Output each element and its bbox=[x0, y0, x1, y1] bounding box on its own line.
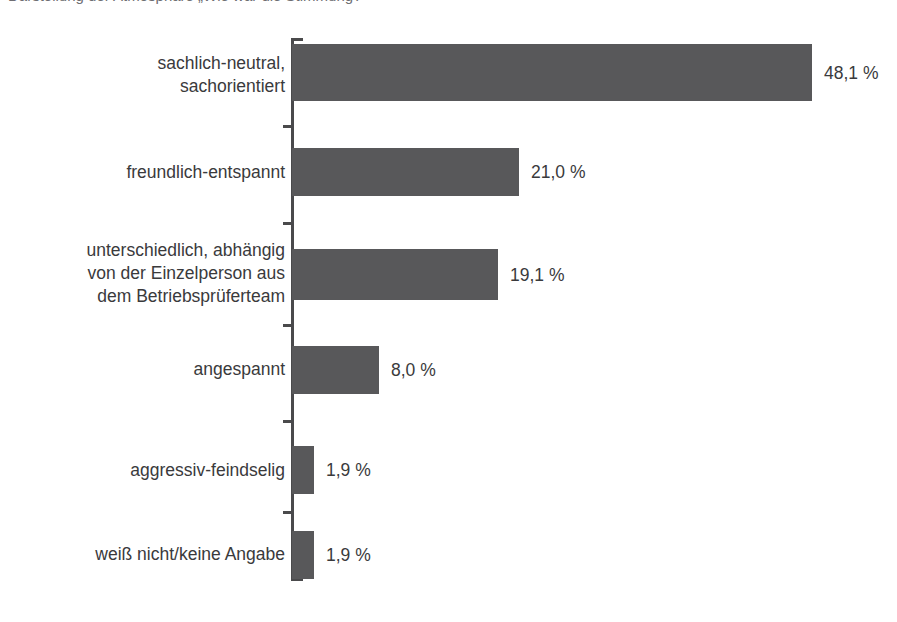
bar-value-label: 1,9 % bbox=[326, 545, 371, 565]
axis-tick bbox=[283, 511, 292, 514]
axis-tick bbox=[283, 324, 292, 327]
bar-value-label: 1,9 % bbox=[326, 460, 371, 480]
category-label: freundlich-entspannt bbox=[0, 161, 285, 184]
bar bbox=[292, 346, 379, 394]
category-label: sachlich-neutral, sachorientiert bbox=[0, 52, 285, 98]
bar bbox=[292, 249, 498, 300]
bar bbox=[292, 531, 314, 579]
category-label: unterschiedlich, abhängig von der Einzel… bbox=[0, 239, 285, 308]
bar-chart: Darstellung der Atmosphäre „Wie war die … bbox=[0, 0, 897, 622]
axis-tick bbox=[283, 222, 292, 225]
category-label: aggressiv-feindselig bbox=[0, 459, 285, 482]
category-axis-line bbox=[291, 38, 294, 581]
bar-value-label: 8,0 % bbox=[391, 360, 436, 380]
axis-cap-top bbox=[291, 38, 303, 41]
bar-value-label: 21,0 % bbox=[531, 162, 585, 182]
category-label: weiß nicht/keine Angabe bbox=[0, 543, 285, 566]
bar bbox=[292, 44, 812, 101]
plot-area: sachlich-neutral, sachorientiert48,1 %fr… bbox=[0, 0, 897, 622]
bar-value-label: 48,1 % bbox=[824, 63, 878, 83]
axis-tick bbox=[283, 420, 292, 423]
category-label: angespannt bbox=[0, 358, 285, 381]
bar bbox=[292, 446, 314, 494]
axis-tick bbox=[283, 125, 292, 128]
bar-value-label: 19,1 % bbox=[510, 265, 564, 285]
bar bbox=[292, 148, 519, 196]
